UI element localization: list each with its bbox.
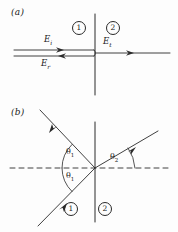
field-label-incident-subscript: i [50, 39, 52, 46]
angle-label-theta1-lower-subscript: 1 [71, 176, 75, 182]
reflected-ray-b [40, 110, 95, 168]
angle-label-theta1-upper: θ1 [66, 148, 74, 158]
field-label-transmitted-subscript: t [109, 41, 111, 48]
panel-tag-b: (b) [11, 108, 25, 117]
angle-label-theta2-subscript: 2 [115, 157, 119, 163]
angle-label-theta2: θ2 [110, 153, 118, 163]
field-label-incident: Ei [44, 35, 52, 46]
field-label-transmitted: Et [103, 37, 112, 48]
figure-vector-layer [0, 0, 178, 232]
physics-figure: (a) 1 2 Ei Er Et (b) θ1 θ1 θ2 1 2 [0, 0, 178, 232]
medium-label-2-panel-a: 2 [106, 21, 120, 35]
medium-label-2-panel-b: 2 [98, 202, 112, 216]
panel-tag-a: (a) [11, 8, 24, 17]
medium-label-1-panel-b: 1 [64, 202, 78, 216]
angle-label-theta1-upper-subscript: 1 [71, 152, 75, 158]
field-label-reflected-subscript: r [47, 63, 50, 70]
reflected-arrowhead-b [49, 124, 57, 133]
transmitted-ray-b [95, 131, 158, 168]
field-label-reflected: Er [41, 59, 50, 70]
angle-label-theta1-lower: θ1 [66, 172, 74, 182]
medium-label-1-panel-a: 1 [72, 21, 86, 35]
